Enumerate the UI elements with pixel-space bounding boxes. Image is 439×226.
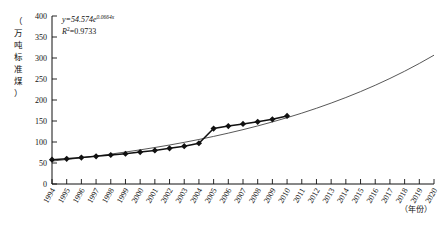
axis-lines <box>52 16 434 184</box>
data-point-marker <box>255 119 261 125</box>
x-tick-label: 2010 <box>277 187 293 205</box>
x-tick-label: 2017 <box>379 187 395 205</box>
x-tick-label: 2014 <box>335 187 351 205</box>
exponential-growth-chart: （ 万 吨 标 准 煤 ） 050100150200250300350400 1… <box>0 0 439 226</box>
observed-data-markers <box>49 113 290 163</box>
data-point-marker <box>64 156 70 162</box>
x-tick-label: 2011 <box>291 187 307 205</box>
equation-annotation: y=54.574e0.0664x R2=0.9733 <box>61 14 115 36</box>
y-axis-title-char-2: 吨 <box>14 40 23 50</box>
y-axis-title-char-6: ） <box>14 88 23 98</box>
y-axis-title-char-3: 标 <box>14 52 23 62</box>
y-tick-label: 150 <box>35 117 47 126</box>
observed-data-line <box>52 116 287 160</box>
x-tick-label: 2007 <box>232 187 248 205</box>
x-tick-label: 2000 <box>130 187 146 205</box>
x-tick-label: 2008 <box>247 187 263 205</box>
y-tick-label: 250 <box>35 75 47 84</box>
data-point-marker <box>225 123 231 129</box>
x-tick-label: 2005 <box>203 187 219 205</box>
chart-svg: （ 万 吨 标 准 煤 ） 050100150200250300350400 1… <box>0 0 439 226</box>
y-tick-label: 350 <box>35 33 47 42</box>
x-tick-label: 2018 <box>394 187 410 205</box>
x-tick-label: 1997 <box>86 187 102 205</box>
y-axis-title-char-1: 万 <box>14 28 23 38</box>
y-axis-title-char-0: （ <box>14 16 23 26</box>
x-tick-label: 2003 <box>174 187 190 205</box>
regression-equation: y=54.574e0.0664x <box>61 14 115 24</box>
trend-line-exponential-fit <box>52 55 434 161</box>
x-tick-label: 2009 <box>262 187 278 205</box>
y-tick-label: 200 <box>35 96 47 105</box>
y-axis-title-char-5: 煤 <box>14 76 23 86</box>
x-tick-label: 2013 <box>321 187 337 205</box>
r-squared-annotation: R2=0.9733 <box>61 26 96 36</box>
data-point-marker <box>181 143 187 149</box>
equation-body: y=54.574e <box>61 15 97 24</box>
y-tick-label: 50 <box>39 159 47 168</box>
data-point-marker <box>49 157 55 163</box>
data-point-marker <box>93 153 99 159</box>
data-point-marker <box>240 121 246 127</box>
x-tick-label: 2006 <box>218 187 234 205</box>
equation-exponent: 0.0664x <box>97 14 115 20</box>
x-tick-label: 2015 <box>350 187 366 205</box>
y-axis-title: （ 万 吨 标 准 煤 ） <box>14 16 23 98</box>
x-tick-label: 2019 <box>409 187 425 205</box>
y-tick-label: 300 <box>35 54 47 63</box>
data-point-marker <box>108 152 114 158</box>
y-tick-label: 400 <box>35 12 47 21</box>
x-axis-ticks: 1994199519961997199819992000200120022003… <box>41 179 439 205</box>
y-tick-label: 100 <box>35 138 47 147</box>
y-axis-ticks: 050100150200250300350400 <box>35 12 57 189</box>
r-squared-value: =0.9733 <box>70 27 97 36</box>
x-tick-label: 1994 <box>41 187 57 205</box>
x-tick-label: 2001 <box>144 187 160 205</box>
x-tick-label: 2004 <box>188 187 204 205</box>
x-tick-label: 1998 <box>100 187 116 205</box>
y-axis-title-char-4: 准 <box>14 64 23 74</box>
data-point-marker <box>78 154 84 160</box>
x-axis-title: （年份） <box>400 204 432 214</box>
x-tick-label: 2016 <box>365 187 381 205</box>
x-tick-label: 2012 <box>306 187 322 205</box>
x-tick-label: 2020 <box>423 187 439 205</box>
y-tick-label: 0 <box>43 180 47 189</box>
data-point-marker <box>166 145 172 151</box>
x-tick-label: 1996 <box>71 187 87 205</box>
x-tick-label: 1999 <box>115 187 131 205</box>
x-tick-label: 2002 <box>159 187 175 205</box>
x-tick-label: 1995 <box>56 187 72 205</box>
